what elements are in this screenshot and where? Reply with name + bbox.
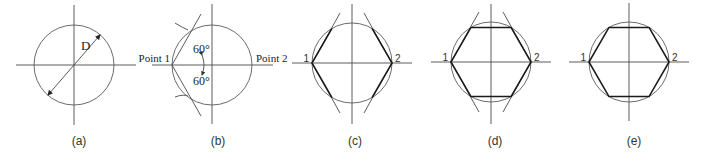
point-2-label: Point 2 — [256, 52, 287, 64]
panel-b: 60° 60° Point 1 Point 2 (b) — [139, 4, 288, 148]
sixty-degree-line-upper — [172, 14, 201, 65]
point-1-label: 1 — [580, 52, 586, 63]
angle-label-top: 60° — [193, 42, 210, 56]
caption-d: (d) — [488, 134, 503, 148]
diameter-arrow-lower — [48, 65, 74, 95]
diameter-label: D — [81, 38, 90, 53]
angle-label-bottom: 60° — [193, 74, 210, 88]
caption-e: (e) — [627, 134, 642, 148]
tick-arc-lower — [175, 95, 188, 97]
panel-c: 1 2 (c) — [292, 4, 412, 148]
tick-arc-upper — [175, 23, 188, 30]
panel-e: 1 2 (e) — [569, 3, 689, 148]
sixty-degree-line-lower — [172, 65, 201, 116]
caption-a: (a) — [72, 134, 87, 148]
panel-d: 1 2 (d) — [431, 4, 551, 148]
point-2-label: 2 — [395, 53, 401, 64]
hexagon-construction-diagram: D (a) 60° 60° Point 1 Point 2 (b) 1 2 (c… — [0, 0, 704, 154]
point-1-label: 1 — [442, 52, 448, 63]
point-1-label: Point 1 — [139, 52, 170, 64]
point-2-label: 2 — [534, 52, 540, 63]
caption-c: (c) — [348, 134, 362, 148]
point-2-label: 2 — [672, 52, 678, 63]
point-1-label: 1 — [303, 53, 309, 64]
panel-a: D (a) — [16, 5, 136, 148]
caption-b: (b) — [211, 134, 226, 148]
